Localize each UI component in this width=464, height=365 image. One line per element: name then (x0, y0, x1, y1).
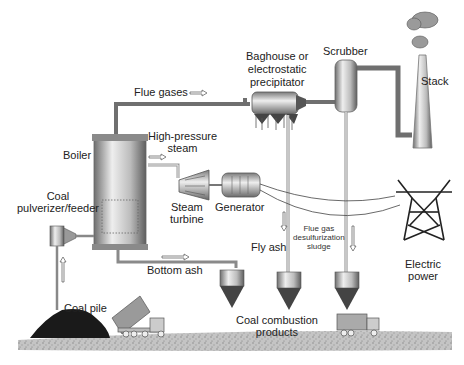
label-high-pressure-steam: High-pressure steam (148, 130, 217, 154)
label-steam-line1: High-pressure (148, 130, 217, 142)
hopper-fly-ash (277, 272, 301, 310)
label-steam-line2: steam (148, 142, 217, 154)
label-coal-combustion-products: Coal combustion products (236, 314, 318, 338)
label-generator: Generator (215, 201, 265, 213)
arrow-fgd (350, 226, 356, 251)
coal-pulverizer (50, 226, 94, 310)
arrow-steam (149, 154, 166, 160)
label-electric-line2: power (405, 270, 441, 282)
label-turbine-line1: Steam (170, 201, 204, 213)
label-fgd-sludge: Flue gas desulfurization sludge (293, 224, 345, 251)
arrow-coal-up (60, 257, 66, 282)
label-baghouse-line3: precipitator (246, 76, 308, 89)
label-ccp-line1: Coal combustion (236, 314, 318, 326)
label-electric-power: Electric power (405, 258, 441, 282)
hopper-fgd-sludge (335, 272, 359, 310)
arrow-bottom-ash (162, 254, 189, 260)
label-stack: Stack (421, 75, 449, 87)
arrow-fly-ash (281, 212, 287, 231)
label-coal-pile: Coal pile (64, 302, 107, 314)
baghouse-precipitator (252, 92, 306, 130)
stack (413, 55, 432, 148)
hopper-bottom-ash (220, 270, 244, 308)
power-plant-diagram: Flue gases Baghouse or electrostatic pre… (0, 0, 464, 365)
label-pulverizer-line1: Coal (17, 190, 99, 202)
generator (222, 173, 260, 197)
label-electric-line1: Electric (405, 258, 441, 270)
scrubber (335, 60, 357, 112)
label-ccp-line2: products (236, 326, 318, 338)
label-baghouse: Baghouse or electrostatic precipitator (246, 50, 308, 89)
label-baghouse-line1: Baghouse or (246, 50, 308, 63)
transmission-tower (396, 180, 452, 240)
scrubber-to-stack-pipe (355, 68, 412, 135)
label-fgd-line1: Flue gas (293, 224, 345, 233)
label-flue-gases: Flue gases (134, 86, 188, 98)
label-bottom-ash: Bottom ash (147, 264, 203, 276)
label-fgd-line2: desulfurization (293, 233, 345, 242)
label-fly-ash: Fly ash (251, 241, 286, 253)
smoke (407, 12, 438, 48)
label-baghouse-line2: electrostatic (246, 63, 308, 76)
label-turbine-line2: turbine (170, 213, 204, 225)
arrow-flue-gases (190, 90, 207, 96)
dump-truck (112, 296, 164, 337)
steam-pipe (148, 165, 178, 178)
label-scrubber: Scrubber (323, 45, 368, 57)
boiler (92, 134, 148, 250)
steam-turbine (179, 170, 222, 200)
label-fgd-line3: sludge (293, 242, 345, 251)
power-line-2 (260, 190, 400, 216)
label-boiler: Boiler (63, 149, 91, 161)
label-pulverizer-line2: pulverizer/feeder (17, 202, 99, 214)
power-line-1 (260, 184, 395, 201)
label-steam-turbine: Steam turbine (170, 201, 204, 225)
label-coal-pulverizer: Coal pulverizer/feeder (17, 190, 99, 214)
